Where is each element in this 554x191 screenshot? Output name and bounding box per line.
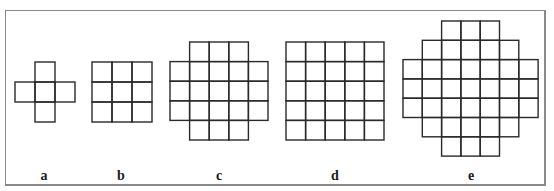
grid-cell <box>480 21 499 40</box>
grid-cell <box>248 101 268 121</box>
shape-label-e: e <box>468 168 474 184</box>
grid-cell <box>364 81 384 101</box>
grid-cell <box>229 62 249 82</box>
grid-cell <box>500 60 519 79</box>
grid-cell <box>112 62 132 82</box>
grid-cell <box>364 101 384 121</box>
grid-cell <box>403 79 422 98</box>
grid-cell <box>422 118 441 137</box>
shape-label-a: a <box>41 168 48 184</box>
grid-cell <box>442 79 461 98</box>
shape-d <box>286 42 384 140</box>
grid-cell <box>480 118 499 137</box>
grid-cell <box>364 62 384 82</box>
grid-cell <box>190 101 210 121</box>
grid-cell <box>92 62 112 82</box>
grid-cell <box>190 81 210 101</box>
grid-cell <box>229 42 249 62</box>
grid-cell <box>170 101 190 121</box>
shape-c <box>170 42 268 140</box>
grid-cell <box>364 120 384 140</box>
grid-cell <box>422 79 441 98</box>
grid-cell <box>442 137 461 156</box>
grid-cell <box>35 62 55 82</box>
shape-label-d: d <box>331 168 339 184</box>
grid-cell <box>286 120 306 140</box>
grid-cell <box>286 101 306 121</box>
grid-shapes-figure <box>0 0 554 191</box>
grid-cell <box>209 101 229 121</box>
shape-b <box>92 62 152 122</box>
grid-cell <box>500 98 519 117</box>
grid-cell <box>500 79 519 98</box>
grid-cell <box>345 120 365 140</box>
grid-cell <box>403 98 422 117</box>
grid-cell <box>461 21 480 40</box>
grid-cell <box>461 118 480 137</box>
grid-cell <box>55 82 75 102</box>
grid-cell <box>306 101 326 121</box>
grid-cell <box>519 98 538 117</box>
grid-cell <box>345 62 365 82</box>
grid-cell <box>345 101 365 121</box>
grid-cell <box>35 102 55 122</box>
grid-cell <box>480 40 499 59</box>
grid-cell <box>461 98 480 117</box>
grid-cell <box>325 101 345 121</box>
grid-cell <box>519 60 538 79</box>
grid-cell <box>112 102 132 122</box>
grid-cell <box>325 42 345 62</box>
grid-cell <box>132 62 152 82</box>
grid-cell <box>92 82 112 102</box>
grid-cell <box>442 118 461 137</box>
grid-cell <box>480 98 499 117</box>
grid-cell <box>286 62 306 82</box>
shape-label-b: b <box>117 168 125 184</box>
grid-cell <box>229 81 249 101</box>
grid-cell <box>480 60 499 79</box>
grid-cell <box>325 120 345 140</box>
grid-cell <box>345 81 365 101</box>
grid-cell <box>480 137 499 156</box>
grid-cell <box>461 40 480 59</box>
grid-cell <box>286 42 306 62</box>
shape-a <box>15 62 75 122</box>
grid-cell <box>306 62 326 82</box>
shape-e <box>403 21 538 156</box>
grid-cell <box>132 82 152 102</box>
grid-cell <box>422 60 441 79</box>
grid-cell <box>480 79 499 98</box>
grid-cell <box>442 21 461 40</box>
grid-cell <box>500 40 519 59</box>
grid-cell <box>229 101 249 121</box>
grid-cell <box>500 118 519 137</box>
grid-cell <box>306 42 326 62</box>
grid-cell <box>286 81 306 101</box>
grid-cell <box>209 42 229 62</box>
grid-cell <box>170 81 190 101</box>
grid-cell <box>112 82 132 102</box>
grid-cell <box>461 60 480 79</box>
grid-cell <box>190 120 210 140</box>
grid-cell <box>209 81 229 101</box>
grid-cell <box>442 98 461 117</box>
grid-cell <box>306 81 326 101</box>
grid-cell <box>461 137 480 156</box>
grid-cell <box>403 60 422 79</box>
grid-cell <box>422 98 441 117</box>
grid-cell <box>325 62 345 82</box>
grid-cell <box>35 82 55 102</box>
grid-cell <box>209 120 229 140</box>
grid-cell <box>306 120 326 140</box>
shape-label-c: c <box>216 168 222 184</box>
grid-cell <box>132 102 152 122</box>
grid-cell <box>519 79 538 98</box>
grid-cell <box>442 60 461 79</box>
grid-cell <box>209 62 229 82</box>
grid-cell <box>15 82 35 102</box>
grid-cell <box>442 40 461 59</box>
grid-cell <box>190 62 210 82</box>
grid-cell <box>345 42 365 62</box>
grid-cell <box>325 81 345 101</box>
grid-cell <box>92 102 112 122</box>
